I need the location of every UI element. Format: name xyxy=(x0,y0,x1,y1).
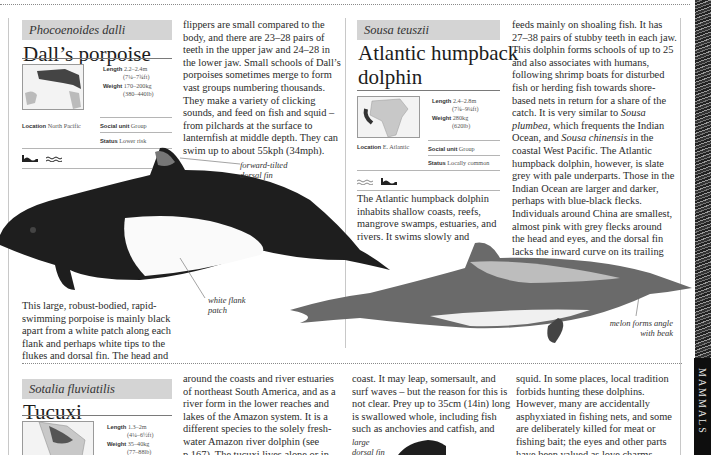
callout-melon-forms-angle-with-beak: melon forms angle with beak xyxy=(608,318,673,338)
description-col2: coast. It may leap, somersault, and surf… xyxy=(352,373,512,436)
description-col3: squid. In some places, local tradition f… xyxy=(516,373,679,455)
tucuxi-dorsal-fin-illustration xyxy=(398,440,448,455)
range-map-south-america xyxy=(22,421,94,455)
callout-white-flank-patch: white flank patch xyxy=(208,295,253,315)
fact-rule xyxy=(357,190,500,191)
description-col1: around the coasts and river estuaries of… xyxy=(183,373,343,455)
callout-large-dorsal-fin: large dorsal fin xyxy=(352,437,392,455)
description-left: The Atlantic humpback dolphin inhabits s… xyxy=(357,193,502,243)
fact-rule xyxy=(357,170,500,171)
callout-forward-tilted-dorsal-fin: forward-tilted dorsal fin xyxy=(240,160,310,180)
description-right: flippers are small compared to the body,… xyxy=(183,19,343,158)
scientific-name: Sotalia fluviatilis xyxy=(22,379,172,399)
section-tab-label: MAMMALS xyxy=(697,368,708,435)
open-sea-wave-icon xyxy=(357,179,373,185)
length-fact: Length 2.4–2.8m (7¾–9¼ft) xyxy=(432,97,478,113)
common-name: Atlantic humpback dolphin xyxy=(358,41,518,89)
location-fact: Location E. Atlantic xyxy=(357,143,409,151)
side-photo-strip xyxy=(695,0,711,358)
social-unit-fact: Social unit Group xyxy=(428,145,475,153)
status-fact: Status Locally common xyxy=(428,159,489,167)
description-left: This large, robust-bodied, rapid-swimmin… xyxy=(22,300,172,363)
weight-fact: Weight 35–40kg (77–88lb) xyxy=(107,440,151,455)
fact-rule xyxy=(428,140,500,141)
title-rule xyxy=(357,90,500,91)
weight-fact: Weight 280kg (620lb) xyxy=(432,114,470,130)
section-tab-mammals[interactable]: MAMMALS xyxy=(694,358,711,455)
length-fact: Length 1.3–2m (4¼–6½ft) xyxy=(107,423,153,439)
fact-rule xyxy=(428,155,500,156)
habitat-icons xyxy=(357,178,397,185)
scientific-name: Sousa teuszii xyxy=(357,20,500,40)
description-right: feeds mainly on shoaling fish. It has 27… xyxy=(512,19,677,271)
title-rule xyxy=(22,415,172,416)
coast-icon xyxy=(381,178,397,185)
range-map-east-atlantic xyxy=(357,96,420,138)
